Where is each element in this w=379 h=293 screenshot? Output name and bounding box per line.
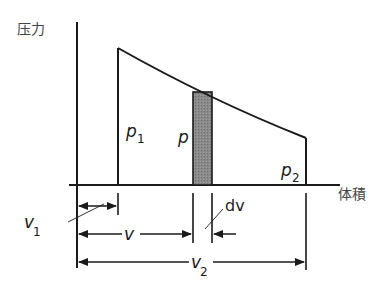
label-p: p [177, 127, 189, 147]
svg-text:2: 2 [200, 265, 208, 279]
svg-text:1: 1 [137, 132, 145, 146]
svg-text:1: 1 [33, 225, 41, 239]
dv-leader-line [205, 209, 223, 229]
label-v: v [124, 224, 135, 244]
y-axis-label: 压力 [17, 21, 45, 37]
label-v1: v 1 [24, 212, 41, 239]
pv-diagram: 压力 体積 p 1 p p 2 v 1 v dv v [0, 0, 379, 293]
dv-work-strip [193, 92, 212, 185]
svg-text:p: p [125, 121, 137, 141]
label-p2: p 2 [280, 160, 300, 185]
label-p1: p 1 [125, 121, 145, 146]
label-v2: v 2 [191, 252, 208, 279]
x-axis-label: 体積 [338, 186, 366, 202]
svg-text:2: 2 [292, 171, 300, 185]
label-dv: dv [225, 196, 245, 215]
svg-text:p: p [280, 160, 292, 180]
svg-text:p: p [177, 127, 189, 147]
svg-text:v: v [124, 224, 135, 244]
